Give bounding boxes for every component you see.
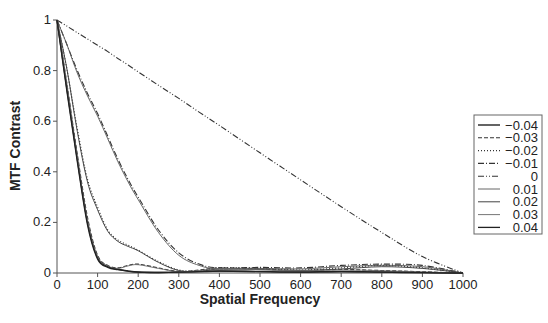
legend-label: 0.04 [513,220,538,235]
x-tick-label: 100 [87,277,109,292]
y-ticks: 00.20.40.60.81 [33,12,57,280]
x-tick-label: 700 [330,277,352,292]
x-axis-title: Spatial Frequency [200,291,321,307]
x-tick-label: 400 [209,277,231,292]
y-tick-label: 0.6 [33,113,51,128]
x-tick-label: 200 [127,277,149,292]
x-tick-label: 900 [412,277,434,292]
y-tick-label: 0.2 [33,214,51,229]
x-tick-label: 800 [371,277,393,292]
y-tick-label: 0.4 [33,164,51,179]
mtf-chart: 00.20.40.60.81 0100200300400500600700800… [0,0,548,323]
y-tick-label: 0 [44,265,51,280]
series-line-4 [57,20,463,273]
x-tick-label: 0 [53,277,60,292]
series-lines [57,20,463,273]
x-ticks: 01002003004005006007008009001000 [53,273,477,292]
y-tick-label: 0.8 [33,63,51,78]
y-axis-title: MTF Contrast [7,101,23,192]
x-tick-label: 1000 [449,277,478,292]
x-tick-label: 300 [168,277,190,292]
y-tick-label: 1 [44,12,51,27]
legend: −0.04−0.03−0.02−0.0100.010.020.030.04 [474,115,542,235]
x-tick-label: 600 [290,277,312,292]
x-tick-label: 500 [249,277,271,292]
